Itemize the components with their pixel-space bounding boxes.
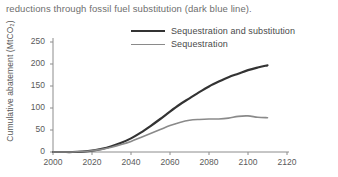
x-tick-label: 2020: [75, 157, 109, 167]
legend-item[interactable]: Sequestration: [131, 39, 228, 49]
y-tick-label: 0: [19, 146, 45, 156]
y-tick-label: 50: [19, 124, 45, 134]
y-tick-label: 200: [19, 58, 45, 68]
chart-figure: Cumulative abatement (MtCO₂) 05010015020…: [0, 26, 338, 177]
y-tick-label: 100: [19, 102, 45, 112]
legend-item[interactable]: Sequestration and substitution: [131, 26, 295, 36]
y-tick-label: 250: [19, 36, 45, 46]
x-tick-label: 2000: [36, 157, 70, 167]
y-tick-label: 150: [19, 80, 45, 90]
legend-label: Sequestration: [171, 39, 228, 49]
x-tick-label: 2040: [114, 157, 148, 167]
figure-caption: reductions through fossil fuel substitut…: [6, 3, 332, 15]
legend-swatch-icon: [131, 30, 165, 32]
x-tick-label: 2120: [270, 157, 304, 167]
x-tick-label: 2080: [192, 157, 226, 167]
legend-label: Sequestration and substitution: [171, 26, 295, 36]
legend-swatch-icon: [131, 44, 165, 45]
x-tick-label: 2100: [231, 157, 265, 167]
series-line-2: [53, 116, 268, 152]
x-tick-label: 2060: [153, 157, 187, 167]
series-line-1: [53, 65, 268, 152]
chart-plot-area: 0501001502002502000202020402060208021002…: [0, 26, 338, 177]
